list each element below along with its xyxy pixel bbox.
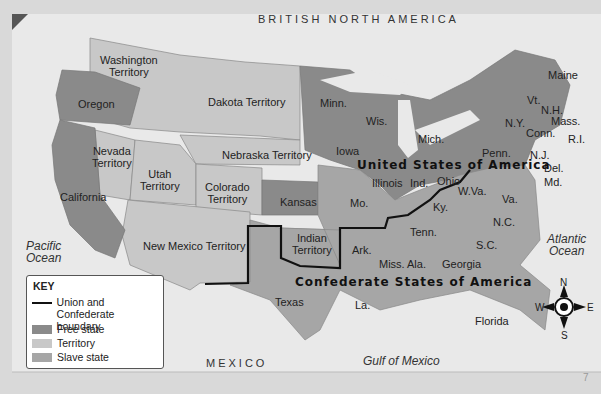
slave-state-swatch [32, 353, 52, 362]
boundary-line-icon [32, 302, 52, 304]
label-maine: Maine [548, 69, 578, 81]
label-mexico: MEXICO [206, 357, 267, 369]
label-wva: W.Va. [458, 185, 487, 197]
label-gulf-of-mexico: Gulf of Mexico [363, 355, 440, 367]
label-ohio: Ohio [437, 175, 460, 187]
label-dakota-territory: Dakota Territory [208, 96, 285, 108]
label-la: La. [355, 299, 370, 311]
compass-w: W [535, 302, 544, 314]
key-item-free-state: Free state [32, 323, 104, 335]
civil-war-map: BRITISH NORTH AMERICA WashingtonTerritor… [0, 0, 601, 394]
label-british-north-america: BRITISH NORTH AMERICA [258, 13, 459, 25]
label-vt: Vt. [527, 94, 540, 106]
compass-n: N [560, 277, 567, 289]
label-nevada-territory: NevadaTerritory [92, 145, 132, 169]
label-ala: Ala. [407, 258, 426, 270]
label-va: Va. [502, 193, 518, 205]
label-confederate-states-of-america: Confederate States of America [295, 276, 532, 288]
label-oregon: Oregon [78, 98, 115, 110]
map-key: KEY Union and Confederateboundary Free s… [26, 275, 164, 369]
label-new-mexico-territory: New Mexico Territory [143, 240, 246, 252]
label-indian-territory: IndianTerritory [292, 232, 332, 256]
label-utah-territory: UtahTerritory [140, 168, 180, 192]
label-united-states-of-america: United States of America [357, 159, 551, 171]
label-tenn: Tenn. [410, 226, 437, 238]
label-conn: Conn. [526, 127, 555, 139]
label-ri: R.I. [568, 133, 585, 145]
compass-s: S [561, 330, 568, 342]
label-miss: Miss. [379, 258, 405, 270]
label-mich: Mich. [418, 133, 444, 145]
label-kansas: Kansas [280, 196, 317, 208]
label-florida: Florida [475, 315, 509, 327]
label-ark: Ark. [352, 244, 372, 256]
label-mass: Mass. [551, 115, 580, 127]
key-title: KEY [33, 280, 55, 292]
key-item-territory: Territory [32, 337, 95, 349]
label-wis: Wis. [366, 115, 387, 127]
page-number: 7 [583, 372, 589, 384]
label-colorado-territory: ColoradoTerritory [205, 181, 250, 205]
free-state-swatch [32, 325, 52, 334]
label-california: California [60, 191, 106, 203]
label-sc: S.C. [476, 239, 497, 251]
label-ind: Ind. [410, 177, 428, 189]
label-minn: Minn. [320, 97, 347, 109]
label-mo: Mo. [350, 197, 368, 209]
label-nc: N.C. [493, 216, 515, 228]
label-illinois: Illinois [372, 177, 403, 189]
label-nebraska-territory: Nebraska Territory [222, 149, 312, 161]
label-atlantic-ocean: AtlanticOcean [547, 233, 586, 257]
label-georgia: Georgia [442, 258, 481, 270]
key-item-slave-state: Slave state [32, 351, 109, 363]
compass-e: E [587, 302, 594, 314]
label-ky: Ky. [433, 201, 448, 213]
label-ny: N.Y. [505, 117, 525, 129]
label-pacific-ocean: PacificOcean [26, 240, 61, 264]
label-washington-territory: WashingtonTerritory [100, 54, 158, 78]
territory-swatch [32, 339, 52, 348]
label-md: Md. [544, 176, 562, 188]
label-iowa: Iowa [336, 145, 359, 157]
label-texas: Texas [275, 296, 304, 308]
